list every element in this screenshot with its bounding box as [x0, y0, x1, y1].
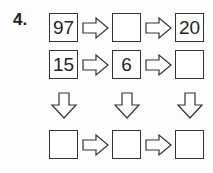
- right-arrow-icon: [82, 54, 109, 76]
- cell-r4-c1[interactable]: [49, 130, 78, 159]
- right-arrow-icon: [82, 134, 109, 156]
- cell-r2-c1[interactable]: 15: [49, 50, 78, 79]
- right-arrow-icon: [145, 17, 172, 39]
- cell-r2-c3[interactable]: [175, 50, 204, 79]
- problem-number: 4.: [13, 10, 27, 30]
- down-arrow-icon: [177, 92, 203, 119]
- right-arrow-icon: [82, 17, 109, 39]
- cell-r1-c2[interactable]: [112, 13, 141, 42]
- right-arrow-icon: [145, 54, 172, 76]
- down-arrow-icon: [51, 92, 77, 119]
- cell-r1-c1[interactable]: 97: [49, 13, 78, 42]
- cell-r2-c2[interactable]: 6: [112, 50, 141, 79]
- cell-r4-c3[interactable]: [175, 130, 204, 159]
- cell-r4-c2[interactable]: [112, 130, 141, 159]
- cell-r1-c3[interactable]: 20: [175, 13, 204, 42]
- down-arrow-icon: [114, 92, 140, 119]
- right-arrow-icon: [145, 134, 172, 156]
